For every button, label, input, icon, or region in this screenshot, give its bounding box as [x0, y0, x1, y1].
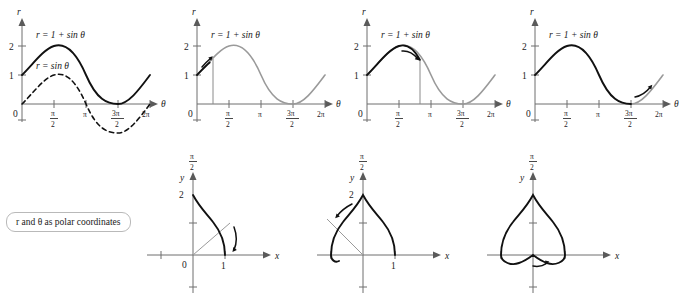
curve-label-sine: r = sin θ — [36, 61, 69, 71]
xtick-pi: π — [428, 110, 432, 119]
svg-text:2: 2 — [190, 163, 194, 172]
xtick-pi-over-2: π 2 — [50, 109, 58, 129]
direction-arrow — [635, 87, 651, 97]
xtick-2pi: 2π — [655, 110, 663, 119]
axis-label-x: x — [614, 251, 620, 261]
origin-label: 0 — [182, 260, 187, 270]
svg-text:3π: 3π — [112, 109, 120, 118]
svg-text:3π: 3π — [457, 109, 465, 118]
xtick-pi: π — [596, 110, 600, 119]
curve-label-cardioid: r = 1 + sin θ — [36, 30, 85, 40]
panel-cartesian-1: r θ 0 1 2 π 2 π 3π 2 2π r = 1 + sin θ r … — [0, 4, 175, 129]
curve-label-cardioid: r = 1 + sin θ — [381, 30, 430, 40]
ytick-label-2: 2 — [349, 190, 354, 200]
ytick-label-2: 2 — [179, 190, 184, 200]
curve-label-cardioid: r = 1 + sin θ — [211, 30, 260, 40]
polar-top-label: π 2 — [529, 152, 537, 172]
origin-label: 0 — [13, 109, 18, 119]
svg-text:π: π — [564, 109, 568, 118]
axis-label-y: y — [519, 173, 525, 183]
xtick-2pi: 2π — [317, 110, 325, 119]
axis-label-y: y — [349, 173, 355, 183]
xtick-3pi-over-2: 3π 2 — [624, 109, 637, 129]
axis-label-r: r — [530, 7, 534, 17]
svg-text:π: π — [51, 109, 55, 118]
xtick-3pi-over-2: 3π 2 — [456, 109, 469, 129]
axis-label-theta: θ — [506, 99, 511, 109]
axis-label-theta: θ — [161, 99, 166, 109]
ytick-2: 2 — [354, 42, 359, 52]
ytick-1: 1 — [522, 71, 527, 81]
caption-box: r and θ as polar coordinates — [6, 212, 131, 232]
axis-label-r: r — [362, 7, 366, 17]
xtick-pi: π — [83, 110, 87, 119]
ytick-2: 2 — [522, 42, 527, 52]
origin-label: 0 — [526, 109, 531, 119]
ytick-2: 2 — [9, 42, 14, 52]
ytick-1: 1 — [354, 71, 359, 81]
svg-text:2: 2 — [564, 120, 568, 129]
svg-text:2: 2 — [115, 120, 119, 129]
svg-text:2: 2 — [628, 120, 632, 129]
xtick-pi-over-2: π 2 — [563, 109, 571, 129]
axis-label-r: r — [17, 7, 21, 17]
svg-text:2: 2 — [530, 163, 534, 172]
panel-polar-2: π 2 y x 1 2 — [305, 150, 480, 299]
curve-cardioid-cartesian — [22, 45, 150, 104]
panel-cartesian-4: r θ 0 1 2 π 2 π 3π 2 2π r = 1 + sin θ — [513, 4, 682, 129]
ytick-1: 1 — [184, 71, 189, 81]
axis-label-x: x — [274, 251, 280, 261]
panel-cartesian-2: r θ 0 1 2 π 2 π 3π 2 2π r = 1 + sin θ — [175, 4, 347, 129]
svg-text:π: π — [190, 152, 194, 161]
panel-cartesian-3: r θ 0 1 2 π 2 π 3π 2 2π r = 1 + sin θ — [345, 4, 517, 129]
svg-text:2: 2 — [226, 120, 230, 129]
axis-label-theta: θ — [336, 99, 341, 109]
axis-label-y: y — [179, 173, 185, 183]
xtick-2pi: 2π — [487, 110, 495, 119]
axis-label-r: r — [192, 7, 196, 17]
panel-polar-3: π 2 y x — [475, 150, 650, 299]
curve-untraced — [631, 75, 663, 104]
svg-text:2: 2 — [460, 120, 464, 129]
curve-untraced — [197, 45, 325, 104]
radius-line — [327, 219, 363, 255]
curve-traced-segment — [367, 45, 420, 75]
axis-label-x: x — [444, 251, 450, 261]
svg-text:π: π — [396, 109, 400, 118]
xtick-pi-over-2: π 2 — [395, 109, 403, 129]
xtick-3pi-over-2: 3π 2 — [111, 109, 124, 129]
axis-label-theta: θ — [674, 99, 679, 109]
polar-top-label: π 2 — [189, 152, 197, 172]
svg-text:2: 2 — [396, 120, 400, 129]
sweep-arrow — [533, 263, 547, 266]
xtick-pi: π — [258, 110, 262, 119]
svg-text:π: π — [226, 109, 230, 118]
polar-axes — [147, 172, 271, 293]
ytick-1: 1 — [9, 71, 14, 81]
polar-top-label: π 2 — [359, 152, 367, 172]
cardioid-arc-traced — [193, 195, 225, 255]
svg-text:2: 2 — [360, 163, 364, 172]
svg-text:3π: 3π — [625, 109, 633, 118]
xtick-label-1: 1 — [391, 261, 396, 271]
origin-label: 0 — [188, 109, 193, 119]
xtick-pi-over-2: π 2 — [225, 109, 233, 129]
xtick-label-1: 1 — [221, 261, 226, 271]
svg-text:2: 2 — [51, 120, 55, 129]
xtick-3pi-over-2: 3π 2 — [286, 109, 299, 129]
panel-polar-1: π 2 y x 0 1 2 — [135, 150, 310, 299]
curve-traced-segment — [535, 45, 631, 104]
svg-text:2: 2 — [290, 120, 294, 129]
curve-label-cardioid: r = 1 + sin θ — [549, 30, 598, 40]
ytick-2: 2 — [184, 42, 189, 52]
origin-label: 0 — [358, 109, 363, 119]
svg-text:π: π — [530, 152, 534, 161]
sweep-arrow — [234, 227, 236, 250]
svg-text:π: π — [360, 152, 364, 161]
svg-text:3π: 3π — [287, 109, 295, 118]
xtick-2pi: 2π — [142, 110, 150, 119]
